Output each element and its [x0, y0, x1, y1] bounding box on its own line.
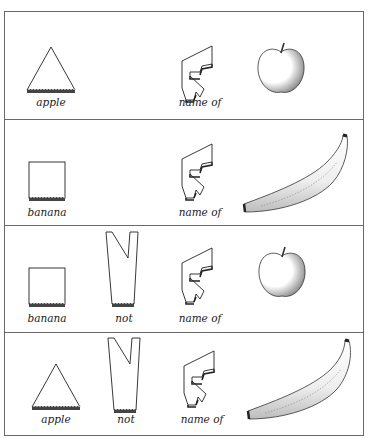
token-label: not: [91, 413, 161, 425]
sentence-row-4: apple not name of: [5, 333, 363, 436]
name-of-token-icon: [178, 44, 218, 104]
not-token-icon: [106, 336, 146, 416]
figure-frame: apple name of banana name of: [4, 11, 364, 436]
token-label: name of: [165, 312, 235, 324]
sentence-row-2: banana name of: [5, 120, 363, 226]
name-of-token-icon: [178, 142, 218, 202]
token-label: name of: [165, 96, 235, 108]
token-label: apple: [16, 96, 86, 108]
triangle-token-icon: [30, 361, 82, 411]
square-token-icon: [27, 160, 67, 204]
token-label: apple: [21, 413, 91, 425]
triangle-token-icon: [25, 44, 77, 94]
token-label: name of: [167, 413, 237, 425]
banana-picture-icon: [245, 337, 355, 423]
token-label: banana: [12, 206, 82, 218]
apple-picture-icon: [255, 40, 307, 98]
square-token-icon: [27, 266, 67, 310]
name-of-token-icon: [178, 246, 218, 306]
not-token-icon: [104, 230, 144, 310]
token-label: name of: [165, 206, 235, 218]
sentence-row-3: banana not name of: [5, 226, 363, 333]
name-of-token-icon: [180, 349, 220, 409]
sentence-row-1: apple name of: [5, 12, 363, 120]
token-label: banana: [12, 312, 82, 324]
token-label: not: [89, 312, 159, 324]
apple-picture-icon: [256, 244, 308, 302]
banana-picture-icon: [241, 132, 351, 214]
